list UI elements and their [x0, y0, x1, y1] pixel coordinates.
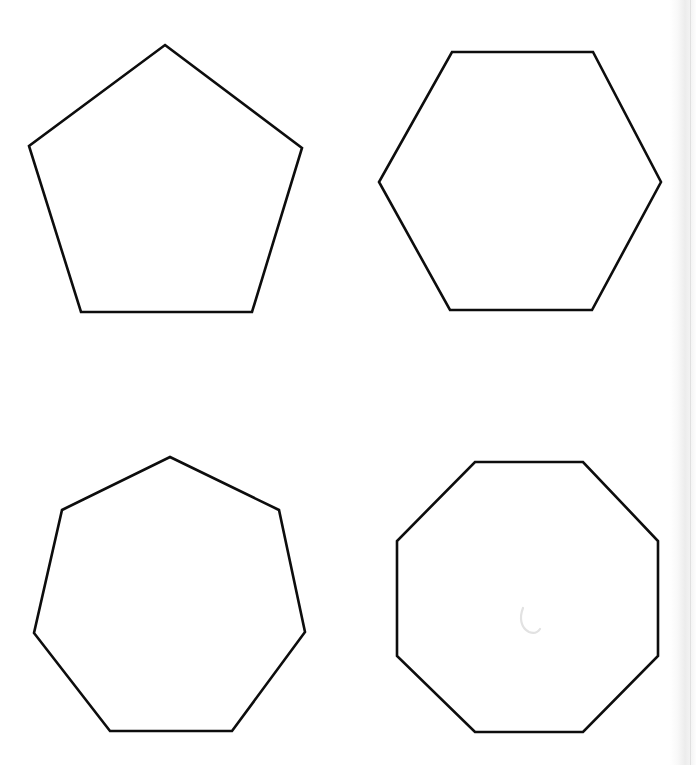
heptagon-shape[interactable] [34, 457, 305, 731]
octagon-shape[interactable] [397, 462, 658, 732]
hexagon-shape[interactable] [379, 52, 661, 310]
worksheet-page [0, 0, 696, 765]
polygon-canvas [0, 0, 696, 765]
pentagon-shape[interactable] [29, 45, 302, 312]
